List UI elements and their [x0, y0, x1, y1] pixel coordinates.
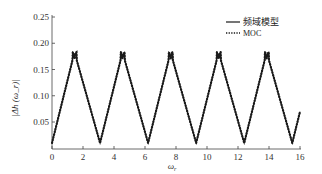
svg-text:ωr: ωr — [168, 161, 177, 172]
x-tick-label: 4 — [112, 152, 117, 162]
x-tick-label: 8 — [174, 152, 179, 162]
x-tick-label: 10 — [203, 152, 213, 162]
x-axis: 0246810121416 — [50, 146, 305, 162]
x-tick-label: 0 — [50, 152, 55, 162]
y-axis: 0.050.100.150.200.25 — [33, 12, 55, 149]
plot-area — [52, 52, 300, 143]
series-moc-markers — [52, 52, 300, 143]
legend-item-frequency-model: 频域模型 — [243, 16, 279, 27]
x-tick-label: 2 — [81, 152, 86, 162]
x-tick-label: 16 — [296, 152, 306, 162]
x-axis-label: ωr — [168, 161, 177, 172]
x-tick-label: 14 — [265, 152, 275, 162]
x-tick-label: 6 — [143, 152, 148, 162]
y-tick-label: 0.10 — [33, 91, 49, 101]
x-axis-label-subscript: r — [174, 166, 177, 172]
legend: 频域模型 MOC — [226, 16, 279, 38]
chart-figure: 0.050.100.150.200.25 0246810121416 |Δh (… — [0, 0, 322, 174]
legend-item-moc: MOC — [243, 29, 261, 38]
y-tick-label: 0.05 — [33, 117, 49, 127]
y-axis-label-text: |Δh (ω_r)| — [10, 79, 20, 116]
y-axis-label: |Δh (ω_r)| — [10, 79, 20, 116]
y-tick-label: 0.25 — [33, 12, 49, 22]
x-tick-label: 12 — [234, 152, 243, 162]
y-tick-label: 0.15 — [33, 65, 49, 75]
y-tick-label: 0.20 — [33, 38, 49, 48]
